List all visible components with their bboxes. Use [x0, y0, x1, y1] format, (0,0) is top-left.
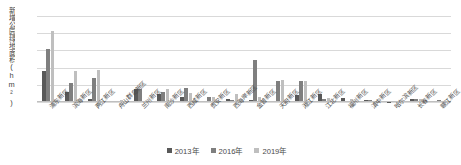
- bar: [42, 71, 46, 102]
- legend-item: 2019年: [254, 145, 287, 156]
- bar: [92, 78, 96, 102]
- gridline: [37, 33, 451, 34]
- legend-item: 2016年: [211, 145, 244, 156]
- legend-label: 2016年: [219, 145, 244, 156]
- legend-label: 2019年: [262, 145, 287, 156]
- gridline: [37, 16, 451, 17]
- bar-group: [37, 31, 60, 102]
- legend-swatch-icon: [254, 148, 259, 153]
- legend-item: 2013年: [167, 145, 200, 156]
- legend-label: 2013年: [175, 145, 200, 156]
- chart-legend: 2013年2016年2019年: [0, 145, 454, 156]
- y-axis-title: 新增公园绿地面积(hm²): [2, 6, 15, 122]
- bar: [46, 49, 50, 102]
- gridline: [37, 50, 451, 51]
- bar: [276, 81, 280, 102]
- legend-swatch-icon: [211, 148, 216, 153]
- legend-swatch-icon: [167, 148, 172, 153]
- bar: [299, 81, 303, 102]
- bar: [51, 31, 55, 102]
- bar: [253, 60, 257, 102]
